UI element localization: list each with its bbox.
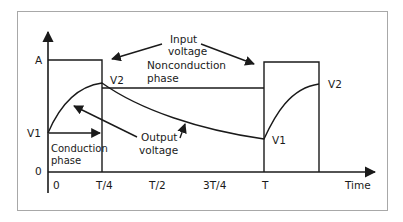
output-voltage-label-line1: Output <box>141 131 177 143</box>
v2-label-second: V2 <box>328 78 342 90</box>
rectifier-waveform-diagram: A V1 0 0 T/4 T/2 3T/4 T Time Input volta… <box>0 0 403 222</box>
nonconduction-label-line1: Nonconduction <box>147 59 226 71</box>
y-tick-v1: V1 <box>27 127 41 139</box>
x-axis-label: Time <box>344 179 371 191</box>
nonconduction-label-line2: phase <box>147 72 179 84</box>
output-voltage-arrow-right <box>180 124 185 138</box>
input-voltage-arrow-left <box>112 44 162 59</box>
output-voltage-label-line2: voltage <box>139 144 178 156</box>
x-tick-0: 0 <box>53 179 60 191</box>
input-voltage-label-line2: voltage <box>168 45 207 57</box>
x-tick-t: T <box>261 179 269 191</box>
y-tick-a: A <box>35 54 43 66</box>
x-tick-3t4: 3T/4 <box>203 179 227 191</box>
output-voltage-curve <box>48 83 319 139</box>
input-pulse-2 <box>264 62 319 172</box>
x-tick-t2: T/2 <box>148 179 166 191</box>
conduction-label-line1: Conduction <box>51 143 108 154</box>
y-tick-zero: 0 <box>35 165 42 177</box>
x-tick-t4: T/4 <box>95 179 113 191</box>
input-voltage-label-line1: Input <box>170 33 197 45</box>
v1-label-second: V1 <box>272 134 286 146</box>
v2-label-first: V2 <box>110 74 124 86</box>
conduction-label-line2: phase <box>51 155 81 166</box>
